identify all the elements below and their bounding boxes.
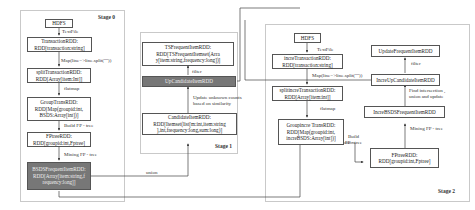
stage2-filter-label: filter [411,61,421,67]
stage2-mining-fp-tree-label: Mining FP - tree [410,126,443,132]
stage1-ts-frequent-item-rdd-box: TSFrequentItemRDD: RDD[TSFrequentItemset… [142,42,234,66]
stage0-group-trans-rdd-box: GroupTransRDD: RDD[Map(groupid:int, BSDS… [27,97,91,121]
stage0-hdfs-box: HDFS [45,19,73,28]
stage2-incre-transaction-rdd-box: increTransactionRDD: RDD[transaction:str… [272,54,343,69]
stage2-flatmap-label: flatmap [320,106,335,112]
stage0-build-fp-tree-label: Build FP - tree [64,123,93,129]
stage1-filter-label: filter [192,69,202,75]
stage1-union-label: union [146,170,157,176]
stage2-find-intersection-label: Find intersection , union and update [409,88,445,100]
stage2-hdfs-box: HDFS [294,33,321,43]
stage0-transaction-rdd-box: TransactionRDD: RDD[transaction:string] [27,37,92,52]
stage2-incre-bsds-frequent-item-rdd-box: IncreBSDSFrequentItemRDD [364,106,445,118]
stage2-incre-up-candidate-item-rdd-box: IncreUpCandidateItemRDD [371,74,440,86]
stage2-group-incre-trans-rdd-box: Groupincre TransRDD: RDD[Map(groupid:int… [278,119,344,145]
stage0-flatmap-label: flatmap [64,86,79,92]
stage0-split-transaction-rdd-box: splitTransactionRDD: RDD[Array[item:Int]… [27,68,91,83]
stage1-candidate-item-rdd-box: CandidateItemRDD: RDD[Itemset(list[m:int… [142,113,237,135]
stage1-up-candidate-item-rdd-box: UpCandidateItemRDD [142,76,236,87]
stage1-update-unknown-label: Update unknown counts based on similarit… [193,95,242,107]
stage2-fptree-rdd-box: FPtreeRDD: RDD[groupid:int,Fptree] [370,148,439,168]
stage0-map-label: Map(line=>line.split("")) [61,58,111,64]
stage2-update-frequent-item-rdd-box: UpdateFrequentItemRDD [371,45,440,57]
stage0-mining-fp-tree-label: Mining FP - tree [64,152,97,158]
stage2-map-label: Map(line=>line.split("")) [312,73,362,79]
stage0-textfile-label: TextFile [62,29,79,35]
stage0-bsds-frequent-item-rdd-box: BSDSFrequentItemRDD: RDD[Array[item:stri… [27,162,91,190]
stage0-fptree-rdd-box: FPtreeRDD: RDD[groupid:int,Fptree] [27,132,91,147]
stage2-split-incre-transaction-rdd-box: splitincreTransactionRDD: RDD[Array[item… [272,86,343,101]
stage2-build-fp-tree-label: Build FP - tree [345,134,362,146]
stage2-textfile-label: TextFile [317,47,334,53]
